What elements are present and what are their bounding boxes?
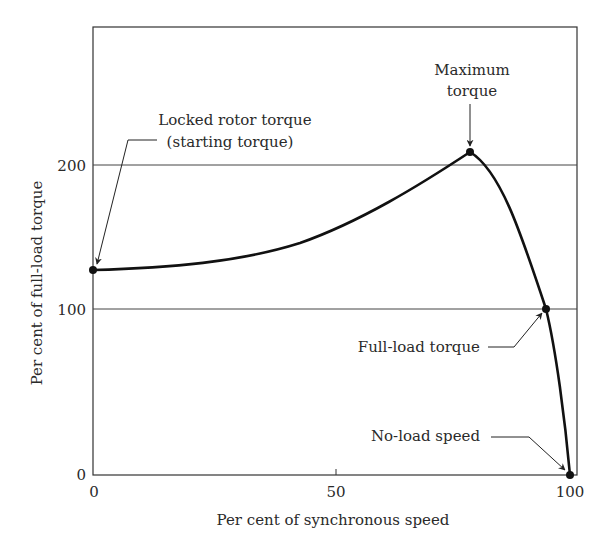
full-load-point (542, 305, 550, 313)
locked-rotor-label-line1: Locked rotor torque (158, 111, 311, 129)
no-load-point (566, 471, 574, 479)
y-tick-200: 200 (57, 157, 86, 175)
x-tick-50: 50 (326, 483, 345, 501)
max-torque-label-line1: Maximum (434, 61, 510, 79)
full-load-arrow (488, 313, 542, 347)
y-tick-100: 100 (57, 301, 86, 319)
x-tick-0: 0 (89, 483, 99, 501)
x-axis-title: Per cent of synchronous speed (217, 511, 450, 529)
locked-rotor-label-line2: (starting torque) (167, 133, 294, 151)
y-axis-title: Per cent of full-load torque (28, 181, 46, 386)
torque-speed-chart: Locked rotor torque (starting torque) Ma… (0, 0, 610, 550)
locked-rotor-point (89, 266, 97, 274)
x-tick-100: 100 (556, 483, 585, 501)
torque-curve (93, 152, 570, 475)
no-load-label: No-load speed (371, 427, 480, 445)
y-tick-0: 0 (76, 466, 86, 484)
max-torque-label-line2: torque (447, 82, 497, 100)
plot-frame (93, 27, 577, 475)
no-load-arrow (491, 437, 565, 470)
max-torque-point (466, 148, 474, 156)
full-load-label: Full-load torque (358, 338, 480, 356)
locked-rotor-arrow (97, 140, 157, 264)
